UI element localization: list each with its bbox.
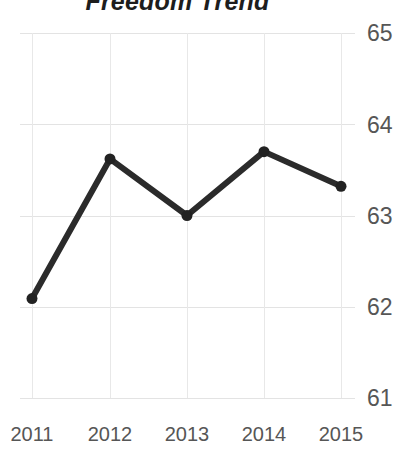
data-point-2014 <box>259 146 270 157</box>
freedom-trend-chart: Freedom Trend 65 64 63 62 61 2011 2012 2… <box>0 0 420 465</box>
chart-title: Freedom Trend <box>0 0 355 16</box>
data-point-2012 <box>105 153 116 164</box>
data-series-line <box>20 33 355 398</box>
x-tick-label-2015: 2015 <box>296 424 386 444</box>
y-tick-label-61: 61 <box>367 387 412 410</box>
y-tick-label-63: 63 <box>367 205 412 228</box>
data-point-2011 <box>27 293 38 304</box>
y-tick-label-64: 64 <box>367 114 412 137</box>
gridline-horizontal-61 <box>20 398 355 399</box>
plot-area <box>20 33 355 398</box>
y-tick-label-62: 62 <box>367 296 412 319</box>
data-point-2013 <box>182 210 193 221</box>
data-point-2015 <box>336 181 347 192</box>
y-tick-label-65: 65 <box>367 22 412 45</box>
